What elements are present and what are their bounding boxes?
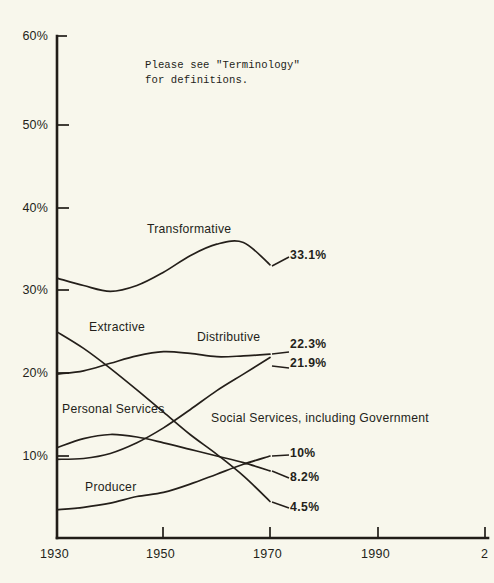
value-label-social-services: 21.9% (290, 356, 327, 370)
y-axis-label-40: 40% (8, 201, 48, 215)
leader-social-services (272, 366, 289, 368)
value-label-extractive: 4.5% (290, 500, 319, 514)
series-label-producer: Producer (85, 480, 136, 494)
value-label-transformative: 33.1% (290, 248, 327, 262)
value-label-producer: 10% (290, 446, 316, 460)
x-axis-label-1970: 1970 (253, 547, 282, 561)
series-curve-transformative (57, 241, 270, 291)
leader-distributive (272, 352, 289, 354)
leader-producer (272, 455, 289, 456)
series-label-extractive: Extractive (89, 320, 145, 334)
terminology-note-line-2: for definitions. (145, 73, 248, 88)
x-axis-label-1930: 1930 (40, 547, 69, 561)
chart-container: 60% 50% 40% 30% 20% 10% 1930 1950 1970 1… (0, 0, 494, 583)
series-curve-distributive (57, 352, 270, 374)
leader-transformative (272, 257, 289, 266)
series-label-social-services: Social Services, including Government (211, 411, 429, 425)
series-label-distributive: Distributive (197, 330, 260, 344)
y-axis-label-20: 20% (8, 366, 48, 380)
value-label-distributive: 22.3% (290, 337, 327, 351)
y-axis-label-10: 10% (8, 449, 48, 463)
y-axis-label-30: 30% (8, 283, 48, 297)
series-label-transformative: Transformative (147, 222, 231, 236)
terminology-note-line-1: Please see "Terminology" (145, 58, 300, 73)
leader-extractive (272, 502, 289, 508)
y-axis-label-60: 60% (8, 29, 48, 43)
series-label-personal-services: Personal Services (62, 402, 164, 416)
series-curves (57, 241, 270, 510)
x-axis-label-1950: 1950 (146, 547, 175, 561)
value-label-personal-services: 8.2% (290, 470, 319, 484)
y-axis-label-50: 50% (8, 118, 48, 132)
leader-personal-services (272, 471, 289, 478)
x-axis-label-1990: 1990 (361, 547, 390, 561)
x-axis-label-2010: 2 (481, 547, 488, 561)
